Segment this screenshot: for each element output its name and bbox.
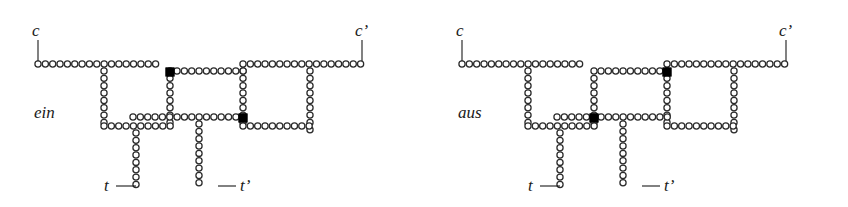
bead <box>466 61 472 67</box>
bead <box>525 68 531 74</box>
segment-bottom-right-rail <box>240 123 312 129</box>
bead <box>557 145 563 151</box>
bead <box>174 114 180 120</box>
bead <box>693 61 699 67</box>
bead <box>138 123 144 129</box>
bead <box>159 114 165 120</box>
bead <box>240 123 246 129</box>
bead <box>752 61 758 67</box>
figure-aus: cc’tt’aus <box>424 0 848 207</box>
segment-lower-mid-rail <box>130 114 246 120</box>
segment-left-vertical-stem <box>101 68 107 126</box>
bead <box>554 114 560 120</box>
segment-tp-drop <box>620 121 626 186</box>
bead <box>225 68 231 74</box>
bead <box>731 75 737 81</box>
bead <box>664 83 670 89</box>
bead <box>591 83 597 89</box>
switch-upper[interactable] <box>166 68 175 77</box>
bead <box>557 181 563 187</box>
bead <box>358 61 364 67</box>
bead <box>284 61 290 67</box>
bead <box>715 61 721 67</box>
terminal-label-c: c <box>456 21 464 40</box>
bead <box>233 68 239 74</box>
bead <box>525 61 531 67</box>
bead <box>350 61 356 67</box>
bead <box>269 61 275 67</box>
bead <box>64 61 70 67</box>
bead <box>701 61 707 67</box>
bead <box>686 123 692 129</box>
bead <box>532 123 538 129</box>
bead <box>101 105 107 111</box>
bead <box>562 61 568 67</box>
bead <box>767 61 773 67</box>
bead <box>299 123 305 129</box>
bead <box>306 123 312 129</box>
bead <box>620 121 626 127</box>
bead <box>240 68 246 74</box>
bead <box>642 114 648 120</box>
bead <box>598 114 604 120</box>
bead <box>620 165 626 171</box>
bead <box>613 114 619 120</box>
bead <box>569 61 575 67</box>
bead <box>196 172 202 178</box>
bead <box>591 105 597 111</box>
bead <box>307 83 313 89</box>
bead <box>671 123 677 129</box>
segment-bottom-left-rail <box>525 123 597 129</box>
bead <box>730 123 736 129</box>
bead <box>518 61 524 67</box>
bead <box>42 61 48 67</box>
segment-lower-mid-rail <box>554 114 670 120</box>
bead <box>613 68 619 74</box>
bead <box>123 61 129 67</box>
bead <box>153 61 159 67</box>
segment-top-right-rail <box>664 61 788 67</box>
bead <box>731 90 737 96</box>
bead <box>547 123 553 129</box>
bead <box>262 61 268 67</box>
bead <box>686 61 692 67</box>
bead <box>218 114 224 120</box>
bead <box>247 61 253 67</box>
switch-upper[interactable] <box>663 68 672 77</box>
bead <box>723 123 729 129</box>
bead <box>540 61 546 67</box>
segment-left-vertical-stem <box>525 68 531 126</box>
segment-t-drop <box>557 130 563 188</box>
switch-lower[interactable] <box>239 114 248 123</box>
bead <box>715 123 721 129</box>
bead <box>620 150 626 156</box>
bead <box>196 136 202 142</box>
bead <box>57 61 63 67</box>
bead <box>649 114 655 120</box>
bead <box>167 90 173 96</box>
bead <box>620 68 626 74</box>
bead <box>554 123 560 129</box>
bead <box>133 167 139 173</box>
bead <box>189 114 195 120</box>
switch-lower[interactable] <box>590 114 599 123</box>
bead <box>745 61 751 67</box>
bead <box>116 123 122 129</box>
bead <box>664 97 670 103</box>
bead <box>269 123 275 129</box>
bead <box>693 123 699 129</box>
bead <box>557 130 563 136</box>
bead <box>503 61 509 67</box>
bead <box>306 61 312 67</box>
bead <box>557 159 563 165</box>
bead <box>145 114 151 120</box>
bead <box>152 114 158 120</box>
bead-chain-group <box>459 61 788 188</box>
bead <box>203 68 209 74</box>
bead <box>167 123 173 129</box>
bead <box>335 61 341 67</box>
bead <box>547 61 553 67</box>
bead <box>133 174 139 180</box>
bead <box>708 61 714 67</box>
bead <box>591 75 597 81</box>
